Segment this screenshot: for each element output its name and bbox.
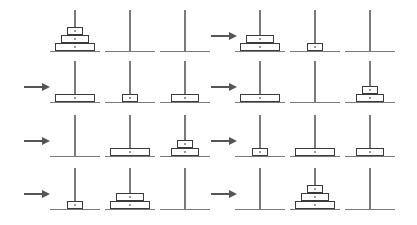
disk-center-mark [74, 38, 76, 40]
disk-center-mark [314, 46, 316, 48]
panel-state-1 [50, 2, 210, 52]
disk-center-mark [259, 38, 261, 40]
right-arrow-icon [211, 137, 237, 145]
disk-center-mark [369, 97, 371, 99]
disk-size-3 [110, 148, 150, 156]
disk-size-3 [55, 94, 95, 102]
right-arrow-icon [24, 83, 50, 91]
disk-center-mark [314, 188, 316, 190]
right-arrow-icon [24, 190, 50, 198]
disk-size-2 [171, 148, 199, 156]
disk-center-mark [129, 97, 131, 99]
disk-size-1 [307, 185, 323, 193]
right-arrow-icon [211, 83, 237, 91]
disk-size-3 [240, 43, 280, 51]
disk-size-2 [171, 94, 199, 102]
peg-rod [369, 168, 371, 210]
peg-rod [184, 10, 186, 52]
disk-size-1 [307, 43, 323, 51]
disk-size-3 [295, 201, 335, 209]
disk-center-mark [259, 97, 261, 99]
disk-center-mark [314, 151, 316, 153]
disk-size-2 [356, 94, 384, 102]
disk-size-2 [116, 193, 144, 201]
disk-size-2 [246, 35, 274, 43]
peg-rod [369, 10, 371, 52]
peg-rod [184, 168, 186, 210]
disk-center-mark [184, 143, 186, 145]
peg-rod [314, 61, 316, 103]
disk-size-1 [67, 201, 83, 209]
disk-center-mark [74, 97, 76, 99]
disk-center-mark [74, 204, 76, 206]
disk-center-mark [74, 30, 76, 32]
disk-size-1 [67, 27, 83, 35]
right-arrow-icon [24, 137, 50, 145]
panel-state-7 [50, 160, 210, 210]
disk-center-mark [259, 151, 261, 153]
disk-center-mark [369, 151, 371, 153]
disk-center-mark [129, 151, 131, 153]
right-arrow-icon [211, 32, 237, 40]
disk-size-1 [252, 148, 268, 156]
right-arrow-icon [211, 190, 237, 198]
peg-rod [129, 10, 131, 52]
disk-center-mark [314, 204, 316, 206]
peg-rod [74, 115, 76, 157]
disk-size-1 [122, 94, 138, 102]
disk-center-mark [314, 196, 316, 198]
disk-size-3 [240, 94, 280, 102]
panel-state-6 [235, 107, 395, 157]
disk-center-mark [74, 46, 76, 48]
panel-state-2 [235, 2, 395, 52]
disk-size-2 [356, 148, 384, 156]
disk-center-mark [184, 97, 186, 99]
disk-center-mark [129, 204, 131, 206]
disk-center-mark [184, 151, 186, 153]
disk-size-1 [362, 86, 378, 94]
panel-state-3 [50, 53, 210, 103]
disk-size-2 [61, 35, 89, 43]
disk-center-mark [369, 89, 371, 91]
disk-center-mark [129, 196, 131, 198]
disk-size-2 [301, 193, 329, 201]
disk-size-3 [110, 201, 150, 209]
panel-state-5 [50, 107, 210, 157]
disk-size-1 [177, 140, 193, 148]
panel-state-8 [235, 160, 395, 210]
disk-center-mark [259, 46, 261, 48]
disk-size-3 [295, 148, 335, 156]
disk-size-3 [55, 43, 95, 51]
hanoi-sequence-diagram [0, 0, 417, 225]
panel-state-4 [235, 53, 395, 103]
peg-rod [259, 168, 261, 210]
